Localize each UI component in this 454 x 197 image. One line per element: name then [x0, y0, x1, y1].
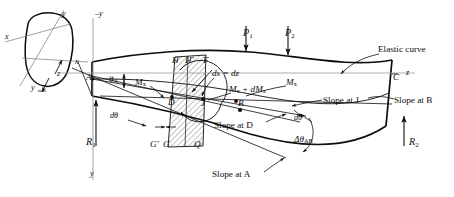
- d-theta-left-arrows: [128, 120, 176, 127]
- point-label-B: B: [238, 99, 244, 108]
- annotation-delta-theta-AB: ΔθAB: [294, 135, 313, 145]
- load-label-P2: P2: [285, 28, 295, 39]
- axis-label-x-right-section: x: [75, 58, 79, 66]
- point-label-G: G: [163, 140, 170, 149]
- point-label-D: D: [168, 98, 175, 107]
- diagram-vector-layer: [0, 0, 454, 197]
- axis-label-minus-y-section: –y: [58, 10, 66, 18]
- annotation-d-theta-right: dθ: [294, 114, 302, 122]
- axis-label-x-section: x: [5, 33, 9, 41]
- point-label-Q: Q: [194, 140, 201, 149]
- point-label-C: C: [393, 73, 399, 82]
- axis-label-z-right: z: [406, 69, 409, 77]
- beam-cross-section: [5, 10, 88, 86]
- annotation-theta-A: θA: [109, 75, 118, 85]
- annotation-d-theta-left: dθ: [110, 112, 118, 120]
- axis-label-minus-y-beam: –y: [95, 10, 103, 18]
- axis-label-z-section: z: [57, 70, 60, 78]
- load-label-P1: P1: [243, 28, 253, 39]
- point-label-H-prime: H': [185, 56, 194, 65]
- annotation-ds-dz: ds = dz: [212, 69, 239, 78]
- annotation-slope-at-B: Slope at B: [394, 96, 432, 105]
- point-label-H: H: [172, 56, 179, 65]
- reaction-label-R1: R1: [86, 137, 96, 148]
- moment-label-Mx-right: Mx: [286, 78, 297, 88]
- annotation-slope-at-A: Slope at A: [212, 170, 250, 179]
- moment-label-Mx-left: Mx: [135, 78, 146, 88]
- point-B-dot: [238, 108, 242, 112]
- reaction-label-R2: R2: [409, 137, 419, 148]
- figure-canvas: P1 P2 R1 R2 A B C D F H H' J G G' Q Mx M…: [0, 0, 454, 197]
- annotation-slope-at-J: Slope at J: [323, 96, 359, 105]
- moment-label-Mx-plus-dMx: Mx + dMx: [229, 85, 266, 95]
- annotation-slope-at-D: Slope at D: [214, 121, 253, 130]
- annotation-elastic-curve: Elastic curve: [378, 45, 426, 54]
- axis-label-y-section-lower: y: [31, 84, 35, 92]
- point-A-marker: [92, 78, 95, 81]
- axis-label-y-down: y: [90, 170, 94, 178]
- point-label-A: A: [86, 73, 92, 82]
- point-label-G-prime: G': [150, 140, 159, 149]
- point-label-F: F: [203, 56, 209, 65]
- point-label-J: J: [201, 99, 205, 108]
